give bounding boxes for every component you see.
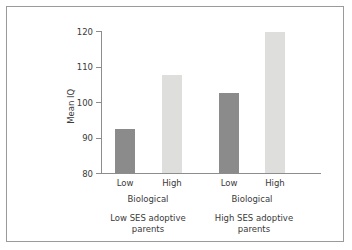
bar-group2-low xyxy=(219,93,239,173)
y-tick-110: 110 xyxy=(96,67,101,68)
y-tickmark xyxy=(96,31,101,32)
y-tick-label: 120 xyxy=(77,27,93,36)
x-category-label-1: Low xyxy=(105,179,145,188)
figure-frame: 120 110 100 90 80 Mean IQ Low High Low H… xyxy=(6,6,344,242)
x-category-label-2: High xyxy=(152,179,192,188)
outer-group-label-1: Low SES adoptive parents xyxy=(108,213,188,234)
y-tick-label: 80 xyxy=(82,169,93,178)
y-tickmark xyxy=(96,138,101,139)
outer-group-label-1-line2: parents xyxy=(108,224,188,235)
y-tickmark xyxy=(96,173,101,174)
outer-group-label-2-line2: parents xyxy=(212,224,296,235)
x-category-label-4: High xyxy=(255,179,295,188)
x-axis-line xyxy=(101,173,321,174)
y-tick-90: 90 xyxy=(96,138,101,139)
y-tickmark xyxy=(96,67,101,68)
bar-group2-high xyxy=(265,32,285,173)
y-tick-label: 110 xyxy=(77,63,93,72)
y-tickmark xyxy=(96,102,101,103)
y-tick-label: 90 xyxy=(82,134,93,143)
group-axis-label-2: Biological xyxy=(222,195,282,204)
outer-group-label-1-line1: Low SES adoptive xyxy=(108,213,188,224)
y-tick-80: 80 xyxy=(96,173,101,174)
y-tick-100: 100 xyxy=(96,102,101,103)
y-axis-line xyxy=(101,31,102,173)
outer-group-label-2: High SES adoptive parents xyxy=(212,213,296,234)
chart-plot-area: 120 110 100 90 80 Mean IQ Low High Low H… xyxy=(7,7,345,243)
bar-group1-high xyxy=(162,75,182,173)
y-tick-label: 100 xyxy=(77,98,93,107)
outer-group-label-2-line1: High SES adoptive xyxy=(212,213,296,224)
y-tick-120: 120 xyxy=(96,31,101,32)
group-axis-label-1: Biological xyxy=(118,195,178,204)
x-category-label-3: Low xyxy=(209,179,249,188)
y-axis-title: Mean IQ xyxy=(67,89,76,124)
bar-group1-low xyxy=(115,129,135,173)
